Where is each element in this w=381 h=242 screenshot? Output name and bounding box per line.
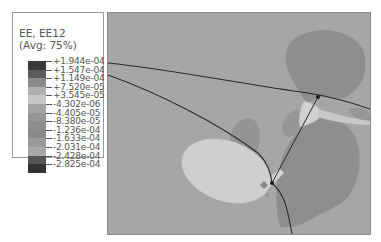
legend-tick-mark xyxy=(46,95,52,96)
legend-tick-mark xyxy=(46,130,52,131)
legend-swatch xyxy=(28,78,46,87)
contour-plot-graphic xyxy=(108,13,370,234)
legend-tick-mark xyxy=(46,164,52,165)
legend-tick-mark xyxy=(46,78,52,79)
legend-title: EE, EE12 xyxy=(19,27,66,39)
legend-swatch xyxy=(28,87,46,96)
legend-swatch xyxy=(28,61,46,70)
legend-tick-mark xyxy=(46,147,52,148)
triple-junction-upper xyxy=(316,95,320,99)
legend-tick-mark xyxy=(46,113,52,114)
legend-swatch xyxy=(28,147,46,156)
legend-swatch xyxy=(28,70,46,79)
legend-subtitle: (Avg: 75%) xyxy=(19,39,77,51)
legend-swatch xyxy=(28,130,46,139)
triple-junction-lower xyxy=(270,181,274,185)
legend-swatch xyxy=(28,164,46,173)
contour-plot-viewport[interactable] xyxy=(107,12,371,235)
legend-swatch xyxy=(28,113,46,122)
legend-tick-mark xyxy=(46,138,52,139)
legend-swatch xyxy=(28,104,46,113)
legend-swatch xyxy=(28,138,46,147)
legend-tick-mark xyxy=(46,156,52,157)
legend-swatch xyxy=(28,121,46,130)
legend-color-bar xyxy=(28,61,46,173)
legend-tick-mark xyxy=(46,121,52,122)
legend-swatch xyxy=(28,95,46,104)
legend-tick-mark xyxy=(46,104,52,105)
legend-tick-mark xyxy=(46,87,52,88)
legend-tick-mark xyxy=(46,61,52,62)
legend-tick-mark xyxy=(46,70,52,71)
legend-tick-label: -2.825e-04 xyxy=(53,160,100,169)
legend-swatch xyxy=(28,156,46,165)
contour-legend: EE, EE12 (Avg: 75%) +1.944e-04+1.547e-04… xyxy=(12,12,104,158)
